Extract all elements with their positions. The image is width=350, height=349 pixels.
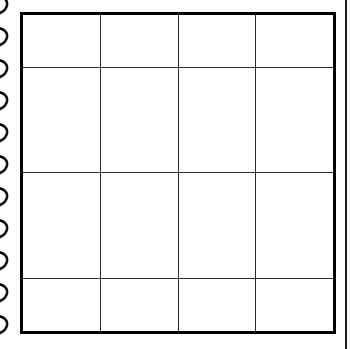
grid-cell-r3-c2[interactable] [101,173,179,278]
grid-cell-r1-c2[interactable] [101,15,179,68]
grid-container [20,12,336,334]
grid-row [23,68,333,173]
grid-body [23,15,333,331]
spiral-coil-icon [0,314,10,336]
grid-cell-r2-c1[interactable] [23,68,101,173]
grid-cell-r1-c3[interactable] [178,15,256,68]
grid-row [23,278,333,331]
grid-cell-r2-c3[interactable] [178,68,256,173]
grid-cell-r2-c2[interactable] [101,68,179,173]
grid-cell-r4-c1[interactable] [23,278,101,331]
grid-cell-r1-c1[interactable] [23,15,101,68]
grid-cell-r3-c3[interactable] [178,173,256,278]
spiral-coil-icon [0,186,10,208]
spiral-coil-icon [0,90,10,112]
spiral-coil-icon [0,282,10,304]
spiral-coil-icon [0,122,10,144]
spiral-coil-icon [0,26,10,48]
grid-cell-r1-c4[interactable] [256,15,334,68]
grid-cell-r3-c4[interactable] [256,173,334,278]
spiral-coil-icon [0,0,10,16]
grid-row [23,173,333,278]
grid-table [23,15,333,331]
notebook-page [0,0,350,349]
grid-cell-r4-c3[interactable] [178,278,256,331]
grid-cell-r4-c2[interactable] [101,278,179,331]
spiral-coil-icon [0,58,10,80]
spiral-binding [0,0,18,349]
spiral-coil-icon [0,250,10,272]
grid-row [23,15,333,68]
spiral-coil-icon [0,218,10,240]
grid-cell-r2-c4[interactable] [256,68,334,173]
grid-cell-r3-c1[interactable] [23,173,101,278]
grid-cell-r4-c4[interactable] [256,278,334,331]
adjacent-page-edge [345,0,347,349]
spiral-coil-icon [0,154,10,176]
